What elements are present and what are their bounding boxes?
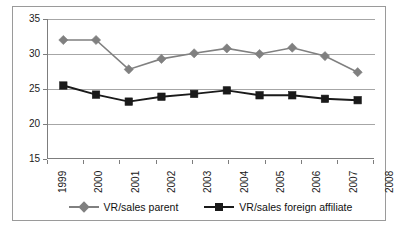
chart-figure: 35 30 25 20 15 1999 2000 2001 2002 2003 …: [0, 0, 400, 232]
xtick-label-2006: 2006: [312, 171, 322, 193]
xtick-label-2008: 2008: [385, 171, 395, 193]
xtick-mark-2003: [192, 160, 193, 164]
xtick-label-2004: 2004: [240, 171, 250, 193]
plot-area: [47, 19, 374, 159]
xtick-mark-2008: [373, 160, 374, 164]
xtick-mark-1999: [47, 160, 48, 164]
xtick-label-1999: 1999: [58, 171, 68, 193]
xtick-label-2005: 2005: [276, 171, 286, 193]
ytick-label-20: 20: [14, 119, 40, 129]
gridline-20: [48, 124, 375, 125]
chart-legend: VR/sales parent VR/sales foreign affilia…: [47, 199, 374, 215]
gridline-25: [48, 89, 375, 90]
xtick-mark-2002: [156, 160, 157, 164]
xtick-mark-2000: [83, 160, 84, 164]
ytick-mark-35: [43, 19, 47, 20]
diamond-marker-icon: [69, 201, 99, 213]
legend-label-foreign-affiliate: VR/sales foreign affiliate: [239, 201, 352, 213]
xtick-label-2002: 2002: [167, 171, 177, 193]
gridline-30: [48, 54, 375, 55]
legend-entry-parent: VR/sales parent: [69, 201, 179, 213]
legend-label-parent: VR/sales parent: [104, 201, 179, 213]
xtick-mark-2001: [119, 160, 120, 164]
ytick-label-25: 25: [14, 84, 40, 94]
xtick-mark-2005: [265, 160, 266, 164]
xtick-mark-2004: [228, 160, 229, 164]
ytick-mark-20: [43, 124, 47, 125]
xtick-mark-2006: [301, 160, 302, 164]
xtick-label-2007: 2007: [349, 171, 359, 193]
ytick-label-30: 30: [14, 49, 40, 59]
xtick-label-2000: 2000: [94, 171, 104, 193]
ytick-label-15: 15: [14, 154, 40, 164]
ytick-label-35: 35: [14, 14, 40, 24]
xtick-label-2003: 2003: [203, 171, 213, 193]
xtick-label-2001: 2001: [131, 171, 141, 193]
legend-entry-foreign-affiliate: VR/sales foreign affiliate: [204, 201, 352, 213]
ytick-mark-30: [43, 54, 47, 55]
gridline-35: [48, 19, 375, 20]
square-marker-icon: [204, 201, 234, 213]
xtick-mark-2007: [337, 160, 338, 164]
ytick-mark-25: [43, 89, 47, 90]
